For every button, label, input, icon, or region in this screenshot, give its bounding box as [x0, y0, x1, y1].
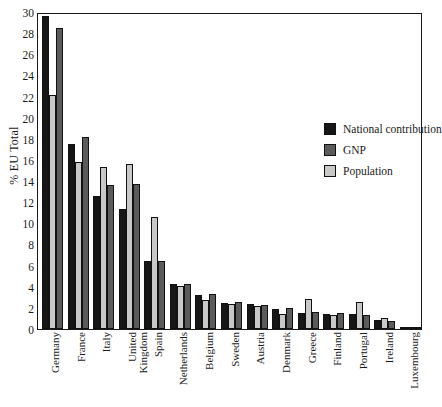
- bar-group: [295, 14, 321, 329]
- bar-group: [117, 14, 143, 329]
- x-axis-tick: Ireland: [384, 332, 395, 363]
- legend-label: Population: [343, 165, 393, 177]
- x-axis-tick-cell: Portugal: [345, 330, 371, 407]
- bar-group: [91, 14, 117, 329]
- bar: [323, 314, 330, 329]
- x-axis-tick-cell: France: [63, 330, 89, 407]
- bar: [381, 318, 388, 329]
- bar: [170, 284, 177, 329]
- bar: [374, 320, 381, 330]
- bar: [82, 137, 89, 329]
- bar: [75, 162, 82, 329]
- bar: [363, 315, 370, 329]
- bar: [298, 313, 305, 329]
- bar: [349, 314, 356, 329]
- x-axis-tick-cell: Belgium: [191, 330, 217, 407]
- bar: [330, 315, 337, 329]
- bar: [279, 314, 286, 329]
- y-axis-tick: 14: [0, 177, 34, 187]
- y-axis-tick: 26: [0, 50, 34, 60]
- x-axis-tick-cell: Finland: [319, 330, 345, 407]
- legend: National contributionGNPPopulation: [324, 122, 442, 185]
- bar: [337, 313, 344, 329]
- x-axis-tick: Netherlands: [178, 332, 189, 385]
- bar: [133, 184, 140, 329]
- x-axis-tick: Sweden: [230, 332, 241, 367]
- legend-swatch-icon: [324, 165, 336, 177]
- bar: [254, 306, 261, 329]
- bar: [202, 300, 209, 329]
- x-axis-tick: Belgium: [204, 332, 215, 370]
- bar: [68, 144, 75, 329]
- y-axis-tick-labels: 302826242220181614121086420: [0, 0, 34, 407]
- x-axis-tick: Spain: [153, 332, 164, 357]
- x-axis-tick: Greece: [307, 332, 318, 363]
- y-axis-tick: 6: [0, 262, 34, 272]
- x-axis-tick-cell: Austria: [242, 330, 268, 407]
- bar: [356, 302, 363, 329]
- bar: [400, 327, 407, 329]
- bar: [272, 309, 279, 329]
- bar: [209, 294, 216, 329]
- plot-area: National contributionGNPPopulation: [37, 13, 422, 330]
- bar-group: [270, 14, 296, 329]
- bar: [312, 312, 319, 329]
- bar: [49, 95, 56, 329]
- x-axis-tick: France: [76, 332, 87, 362]
- y-axis-tick: 24: [0, 71, 34, 81]
- x-axis-tick: Denmark: [281, 332, 292, 373]
- x-axis-tick-cell: Ireland: [371, 330, 397, 407]
- bar: [56, 28, 63, 329]
- bar-group: [40, 14, 66, 329]
- y-axis-tick: 12: [0, 198, 34, 208]
- legend-label: National contribution: [343, 123, 442, 135]
- x-axis-tick: Austria: [255, 332, 266, 364]
- x-axis-tick-cell: UnitedKingdom: [114, 330, 140, 407]
- bar: [407, 327, 414, 329]
- bar: [158, 261, 165, 329]
- x-axis-tick: Germany: [50, 332, 61, 373]
- bar: [261, 305, 268, 329]
- bar: [247, 304, 254, 329]
- bar: [144, 261, 151, 329]
- bar: [235, 302, 242, 329]
- x-axis-tick: Italy: [101, 332, 112, 352]
- bar: [107, 185, 114, 329]
- x-axis-tick-cell: Netherlands: [165, 330, 191, 407]
- bar: [177, 286, 184, 329]
- bar: [221, 303, 228, 329]
- bar: [100, 167, 107, 329]
- x-axis-tick-labels: GermanyFranceItalyUnitedKingdomSpainNeth…: [37, 330, 422, 407]
- x-axis-tick: Portugal: [358, 332, 369, 369]
- bar: [93, 196, 100, 329]
- x-axis-tick-cell: Germany: [37, 330, 63, 407]
- bar: [414, 327, 421, 329]
- bar: [126, 164, 133, 329]
- bar: [151, 217, 158, 329]
- y-axis-tick: 0: [0, 325, 34, 335]
- x-axis-tick-cell: Greece: [294, 330, 320, 407]
- y-axis-tick: 4: [0, 283, 34, 293]
- bar-group: [219, 14, 245, 329]
- bar: [119, 209, 126, 329]
- x-axis-tick-cell: Denmark: [268, 330, 294, 407]
- bar: [286, 308, 293, 329]
- x-axis-tick-cell: Italy: [88, 330, 114, 407]
- x-axis-tick-cell: Sweden: [217, 330, 243, 407]
- x-axis-tick-cell: Luxembourg: [396, 330, 422, 407]
- y-axis-tick: 10: [0, 219, 34, 229]
- bar: [305, 299, 312, 329]
- bar: [42, 16, 49, 329]
- y-axis-tick: 28: [0, 29, 34, 39]
- x-axis-tick-cell: Spain: [140, 330, 166, 407]
- legend-item: National contribution: [324, 122, 442, 135]
- legend-item: Population: [324, 164, 442, 177]
- y-axis-tick: 20: [0, 114, 34, 124]
- y-axis-tick: 2: [0, 304, 34, 314]
- y-axis-tick: 22: [0, 93, 34, 103]
- bar-group: [244, 14, 270, 329]
- legend-swatch-icon: [324, 123, 336, 135]
- bar-group: [168, 14, 194, 329]
- bar: [228, 304, 235, 329]
